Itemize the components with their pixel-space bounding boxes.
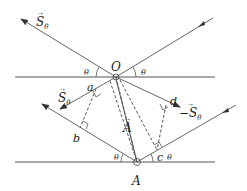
vec-arrow-S-mid: → <box>58 84 66 93</box>
label-S-mid: Sθ <box>58 91 71 107</box>
label-c: c <box>157 151 163 164</box>
incident-arrow-top <box>198 21 205 27</box>
dashed-a-to-b <box>80 89 96 128</box>
theta-top-left: θ <box>84 68 89 77</box>
angle-arc-bottom-left <box>121 154 123 162</box>
label-a: a <box>87 81 94 94</box>
incident-arrow-bottom <box>222 108 229 113</box>
label-O: O <box>111 60 121 74</box>
right-angle-a <box>93 91 101 97</box>
label-d: d <box>170 95 177 108</box>
dashed-d-to-c <box>157 105 166 150</box>
reflection-diagram: Sθ → O θ θ a Sθ → b A → d −Sθ → θ c θ A <box>0 0 247 191</box>
right-angle-d <box>160 104 168 110</box>
right-angle-b <box>83 121 88 129</box>
vec-arrow-S-top: → <box>36 8 44 17</box>
angle-arc-top-left <box>96 67 99 77</box>
theta-top-right: θ <box>141 68 146 77</box>
label-b: b <box>73 132 80 145</box>
label-S-neg: −Sθ <box>179 106 202 122</box>
label-A: A <box>131 174 141 188</box>
theta-bottom-left: θ <box>114 153 119 162</box>
label-A-vec: A <box>122 121 132 135</box>
vec-arrow-S-neg: → <box>186 99 194 108</box>
angle-arc-bottom-right <box>151 154 153 162</box>
label-S-top: Sθ <box>36 15 49 31</box>
angle-arc-top-right <box>133 67 136 77</box>
theta-bottom-right: θ <box>167 153 172 162</box>
vec-arrow-A: → <box>123 114 131 123</box>
